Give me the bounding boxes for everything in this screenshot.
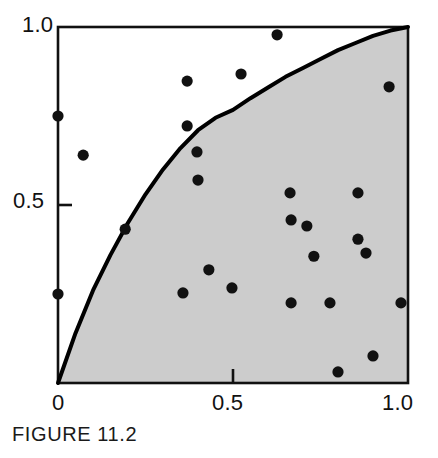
x-axis-tick-label-0: 0: [52, 392, 64, 414]
x-axis-tick-label-1.0: 1.0: [382, 392, 413, 414]
data-point: [120, 224, 131, 235]
data-point: [182, 76, 193, 87]
y-axis-tick-label-0.5: 0.5: [13, 190, 44, 212]
figure-container: 1.0 0.5 0 0.5 1.0 FIGURE 11.2: [0, 0, 438, 458]
data-point: [308, 251, 319, 262]
data-point: [360, 247, 371, 258]
figure-caption: FIGURE 11.2: [12, 424, 137, 444]
y-axis-tick-label-1.0: 1.0: [22, 14, 53, 36]
data-point: [177, 287, 188, 298]
data-point: [235, 68, 246, 79]
data-point: [352, 187, 363, 198]
data-point: [352, 234, 363, 245]
data-point: [182, 120, 193, 131]
x-axis-tick-label-0.5: 0.5: [212, 392, 243, 414]
data-point: [192, 174, 203, 185]
data-point: [286, 297, 297, 308]
data-point: [52, 288, 63, 299]
data-point: [332, 366, 343, 377]
data-point: [301, 220, 312, 231]
data-point: [324, 297, 335, 308]
shaded-region-layer: [58, 27, 408, 383]
shaded-region: [58, 27, 408, 383]
data-point: [203, 264, 214, 275]
data-point: [395, 297, 406, 308]
data-point: [52, 110, 63, 121]
data-point: [286, 214, 297, 225]
data-point: [226, 282, 237, 293]
data-point: [284, 187, 295, 198]
data-point: [78, 150, 89, 161]
data-point: [272, 29, 283, 40]
data-point: [191, 146, 202, 157]
data-point: [367, 350, 378, 361]
data-point: [384, 81, 395, 92]
